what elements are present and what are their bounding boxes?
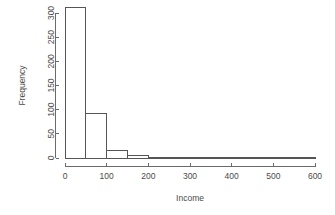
histogram-bar: [65, 7, 86, 158]
x-axis-tick-label: 600: [308, 171, 322, 181]
x-axis-tick-label: 200: [141, 171, 155, 181]
histogram-bar: [211, 157, 232, 158]
histogram-bar: [294, 157, 315, 158]
y-axis-tick-label: 200: [46, 54, 56, 68]
y-axis-tick-label: 300: [46, 6, 56, 20]
histogram-bar: [273, 157, 294, 158]
histogram-bar: [253, 157, 274, 158]
x-axis-tick-label: 100: [100, 171, 114, 181]
y-axis-tick-label: 100: [46, 102, 56, 116]
histogram-bar: [232, 157, 253, 158]
y-axis-tick-label: 0: [46, 155, 56, 160]
histogram-bar: [148, 157, 169, 158]
histogram-bar: [128, 156, 149, 158]
histogram-bar: [190, 157, 211, 158]
y-axis-title: Frequency: [17, 65, 27, 106]
histogram-bar: [86, 113, 107, 158]
y-axis-tick-label: 50: [46, 129, 56, 139]
histogram-bar: [169, 157, 190, 158]
histogram-plot: 0100200300400500600050100150200250300Inc…: [0, 0, 335, 215]
labels-group: 0100200300400500600050100150200250300Inc…: [17, 6, 322, 203]
x-axis-tick-label: 0: [63, 171, 68, 181]
x-axis-tick-label: 400: [225, 171, 239, 181]
y-axis-tick-label: 250: [46, 30, 56, 44]
histogram-bar: [107, 150, 128, 158]
x-axis-tick-label: 500: [266, 171, 280, 181]
x-axis-title: Income: [176, 193, 204, 203]
y-axis-tick-label: 150: [46, 78, 56, 92]
plot-canvas: 0100200300400500600050100150200250300Inc…: [0, 0, 335, 215]
x-axis-tick-label: 300: [183, 171, 197, 181]
bars-group: [65, 7, 315, 158]
